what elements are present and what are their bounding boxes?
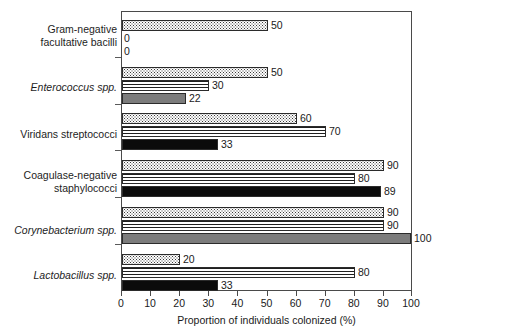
x-axis-tick: [383, 291, 384, 296]
bar-value-label: 89: [384, 186, 396, 197]
bar-series-3: [122, 186, 381, 197]
bar-series-1: [122, 207, 384, 218]
y-category-label-4: Corynebacterium spp.: [0, 224, 117, 237]
y-category-line: Coagulase-negative: [0, 169, 117, 182]
y-category-text: Corynebacterium spp.: [14, 224, 117, 236]
y-category-text: Enterococcus spp.: [31, 81, 117, 93]
bar-value-label: 22: [189, 93, 201, 104]
bar-group-corynebacterium-spp: 90 90 100: [122, 207, 411, 247]
bar-value-label: 80: [358, 267, 370, 278]
x-axis-tick-label: 50: [261, 297, 273, 309]
bar-series-1: [122, 160, 384, 171]
x-axis-tick-label: 90: [377, 297, 389, 309]
y-category-line: staphylococci: [0, 182, 117, 195]
bar-value-label: 20: [183, 254, 195, 265]
y-category-label-0: Gram-negative facultative bacilli: [0, 23, 117, 48]
x-axis-tick-label: 80: [348, 297, 360, 309]
bar-series-2: [122, 173, 355, 184]
bar-series-3: [122, 93, 186, 104]
bar-series-2: [122, 126, 326, 137]
y-category-label-3: Coagulase-negative staphylococci: [0, 169, 117, 194]
x-axis-tick: [411, 291, 412, 296]
bar-group-gram-negative-facultative-bacilli: 50 0 0: [122, 20, 411, 60]
y-category-label-1: Enterococcus spp.: [0, 81, 117, 94]
x-axis-tick: [325, 291, 326, 296]
bar-value-label: 90: [387, 160, 399, 171]
bar-series-1: [122, 113, 297, 124]
bar-series-3: [122, 233, 411, 244]
x-axis-tick-label: 20: [173, 297, 185, 309]
bar-value-label: 30: [212, 80, 224, 91]
bar-series-2: [122, 80, 209, 91]
x-axis-tick-label: 70: [319, 297, 331, 309]
x-axis-tick: [296, 291, 297, 296]
x-axis-tick-label: 0: [118, 297, 124, 309]
y-category-label-2: Viridans streptococci: [0, 128, 117, 141]
y-axis-category-labels: Gram-negative facultative bacilli Entero…: [0, 11, 117, 291]
bar-value-label: 80: [358, 173, 370, 184]
x-axis-tick: [121, 291, 122, 296]
bar-group-coagulase-negative-staphylococci: 90 80 89: [122, 160, 411, 200]
plot-area: 50 0 0 50 30 22: [121, 11, 412, 291]
x-axis-tick-label: 60: [290, 297, 302, 309]
bar-value-label: 0: [124, 33, 130, 44]
x-axis-tick: [179, 291, 180, 296]
bar-value-label: 33: [221, 280, 233, 291]
x-axis-tick: [354, 291, 355, 296]
bar-value-label: 70: [329, 126, 341, 137]
x-axis-tick: [267, 291, 268, 296]
bar-group-lactobacillus-spp: 20 80 33: [122, 254, 411, 294]
bar-series-2: [122, 220, 384, 231]
bar-group-enterococcus-spp: 50 30 22: [122, 67, 411, 107]
x-axis-tick-label: 100: [402, 297, 420, 309]
bar-group-viridans-streptococci: 60 70 33: [122, 113, 411, 153]
y-category-line: Corynebacterium spp.: [0, 224, 117, 237]
x-axis-tick-label: 30: [202, 297, 214, 309]
y-category-line: Enterococcus spp.: [0, 81, 117, 94]
x-axis-tick: [237, 291, 238, 296]
bar-series-1: [122, 20, 268, 31]
bar-value-label: 50: [271, 67, 283, 78]
bar-value-label: 90: [387, 207, 399, 218]
y-category-text: Lactobacillus spp.: [34, 269, 117, 281]
y-category-label-5: Lactobacillus spp.: [0, 269, 117, 282]
x-axis-tick-label: 40: [232, 297, 244, 309]
x-axis-title: Proportion of individuals colonized (%): [121, 314, 412, 326]
x-axis-tick: [208, 291, 209, 296]
y-category-line: facultative bacilli: [0, 36, 117, 49]
bar-chart-figure: Gram-negative facultative bacilli Entero…: [0, 0, 510, 335]
bar-series-2: [122, 267, 355, 278]
bar-series-1: [122, 67, 268, 78]
bar-series-3: [122, 139, 218, 150]
bar-value-label: 100: [414, 233, 432, 244]
bar-series-1: [122, 254, 180, 265]
x-axis-tick-label: 10: [144, 297, 156, 309]
y-category-line: Lactobacillus spp.: [0, 269, 117, 282]
bar-value-label: 60: [300, 113, 312, 124]
x-axis-tick: [150, 291, 151, 296]
y-category-line: Gram-negative: [0, 23, 117, 36]
bar-value-label: 90: [387, 220, 399, 231]
bar-value-label: 50: [271, 20, 283, 31]
bar-value-label: 0: [124, 46, 130, 57]
bar-value-label: 33: [221, 139, 233, 150]
x-axis: 0 10 20 30 40 50 60 70 80 90 100: [121, 291, 412, 335]
y-category-line: Viridans streptococci: [0, 128, 117, 141]
bar-series-3: [122, 280, 218, 291]
